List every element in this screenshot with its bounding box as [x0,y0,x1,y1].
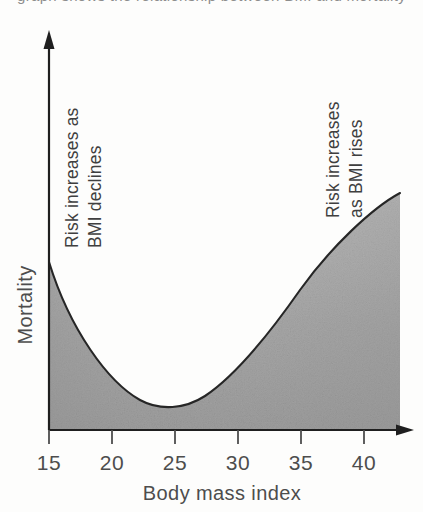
right-annotation-line-2: as BMI rises [346,119,366,218]
y-axis-title: Mortality [14,265,36,344]
bmi-mortality-chart: 15 20 25 30 35 40 Body mass index Mortal… [0,0,423,512]
x-tick-label: 20 [100,451,124,474]
left-annotation-line-2: BMI declines [85,145,105,248]
x-axis-tick-labels: 15 20 25 30 35 40 [37,451,376,474]
x-tick-label: 30 [226,451,250,474]
x-axis-title: Body mass index [143,482,301,504]
right-annotation: Risk increases as BMI rises [323,101,366,218]
x-axis-ticks [49,430,364,444]
chart-page: graph shows the relationship between BMI… [0,0,423,512]
x-tick-label: 35 [289,451,313,474]
left-annotation: Risk increases as BMI declines [62,107,105,248]
y-axis-arrow-icon [44,30,55,49]
x-tick-label: 15 [37,451,61,474]
x-axis-arrow-icon [396,425,414,436]
x-tick-label: 40 [352,451,376,474]
right-annotation-line-1: Risk increases [323,101,343,218]
x-tick-label: 25 [163,451,187,474]
left-annotation-line-1: Risk increases as [62,107,82,248]
